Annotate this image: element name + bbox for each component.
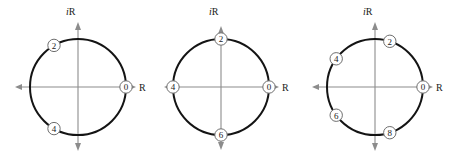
- panel-3-node-0[interactable]: 0: [417, 81, 429, 93]
- panel-3-imaginary-axis-arrow-down: [372, 143, 378, 151]
- panel-3-imaginary-axis-label: iR: [363, 6, 373, 17]
- panel-1-real-axis-label: R: [139, 82, 146, 93]
- panel-2-node-4[interactable]: 4: [167, 81, 179, 93]
- panel-3-node-8-label: 8: [388, 128, 393, 138]
- panel-2-imag-label-r: R: [212, 6, 219, 17]
- panel-3-node-2-label: 2: [388, 37, 393, 47]
- panel-3-node-2[interactable]: 2: [384, 35, 396, 47]
- panel-1-imaginary-axis-arrow-down: [75, 143, 81, 151]
- panel-1-imag-label-r: R: [69, 6, 76, 17]
- panel-3-imag-label-r: R: [366, 6, 373, 17]
- panel-1-node-0-label: 0: [124, 82, 129, 92]
- panel-2-node-0-label: 0: [267, 82, 272, 92]
- panel-2-imaginary-axis-label: iR: [209, 6, 219, 17]
- roots-of-unity-figure: iR R 0 2 4 iR R: [0, 0, 451, 157]
- panel-1-node-2-label: 2: [52, 41, 57, 51]
- panel-1-node-0[interactable]: 0: [120, 81, 132, 93]
- panel-3-node-4[interactable]: 4: [330, 53, 342, 65]
- panel-1: iR R 0 2 4: [15, 6, 146, 151]
- panel-3-node-4-label: 4: [334, 54, 339, 64]
- panel-3-node-0-label: 0: [421, 82, 426, 92]
- complex-plane-diagrams: iR R 0 2 4 iR R: [0, 0, 451, 157]
- panel-2-node-2-label: 2: [219, 34, 224, 44]
- panel-1-node-4[interactable]: 4: [48, 122, 60, 134]
- panel-3-imaginary-axis-arrow-up: [372, 22, 378, 30]
- panel-1-node-4-label: 4: [52, 124, 57, 134]
- panel-3-real-axis-arrow-left: [312, 84, 319, 90]
- panel-3-node-8[interactable]: 8: [384, 127, 396, 139]
- panel-2-node-2[interactable]: 2: [215, 33, 227, 45]
- panel-3-real-axis-label: R: [436, 82, 443, 93]
- panel-2: iR R 0 2 4 6: [164, 6, 289, 150]
- panel-2-node-6-label: 6: [219, 130, 224, 140]
- panel-3-node-6[interactable]: 6: [330, 109, 342, 121]
- panel-3-node-6-label: 6: [334, 111, 339, 121]
- panel-2-node-4-label: 4: [171, 82, 176, 92]
- panel-1-imaginary-axis-label: iR: [66, 6, 76, 17]
- panel-3: iR R 0 2 4 6 8: [312, 6, 443, 151]
- panel-2-real-axis-label: R: [282, 82, 289, 93]
- panel-2-node-0[interactable]: 0: [263, 81, 275, 93]
- panel-1-node-2[interactable]: 2: [48, 39, 60, 51]
- panel-1-real-axis-arrow-left: [15, 84, 22, 90]
- panel-1-imaginary-axis-arrow-up: [75, 22, 81, 30]
- panel-2-node-6[interactable]: 6: [215, 129, 227, 141]
- panel-2-imaginary-axis-arrow-down: [218, 142, 224, 150]
